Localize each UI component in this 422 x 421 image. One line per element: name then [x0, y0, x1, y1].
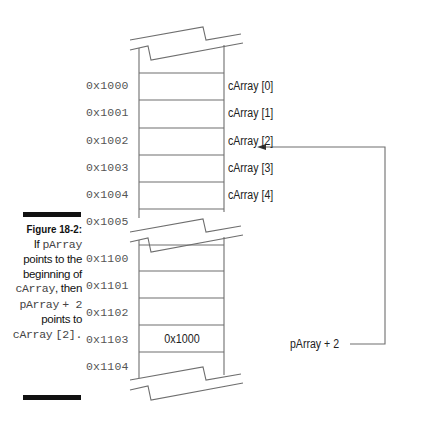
- upper-memory-column: [139, 45, 224, 218]
- array-element-label: cArray [3]: [228, 161, 273, 175]
- figure-label: Figure 18-2:: [21, 222, 82, 237]
- address-label: 0x1002: [86, 134, 136, 147]
- caption-code: pArray: [42, 238, 82, 251]
- caption-code: [2].: [56, 328, 82, 341]
- caption-top-bar: [23, 212, 81, 217]
- caption-code: cArray: [13, 328, 53, 341]
- top-break-symbol: [130, 27, 243, 60]
- lower-memory-column: [139, 237, 224, 378]
- pointer-arrow-line: [264, 147, 385, 344]
- bottom-break-symbol: [130, 367, 243, 400]
- figure-18-2: 0x1000 0x1001 0x1002 0x1003 0x1004 0x100…: [0, 0, 422, 421]
- array-element-label: cArray [1]: [228, 106, 273, 120]
- address-label: 0x1001: [86, 106, 136, 119]
- figure-caption: Figure 18-2: If pArray points to the beg…: [10, 222, 82, 342]
- address-label: 0x1005: [86, 215, 136, 228]
- caption-text: points to: [41, 313, 82, 325]
- caption-code: pArray: [19, 298, 59, 311]
- address-label: 0x1000: [86, 79, 136, 92]
- caption-text: , then: [55, 282, 82, 294]
- caption-code: + 2: [62, 298, 82, 311]
- address-label: 0x1004: [86, 188, 136, 201]
- middle-break-symbol: [130, 219, 243, 252]
- array-element-label: cArray [0]: [228, 79, 273, 93]
- address-label: 0x1102: [86, 306, 136, 319]
- address-label: 0x1103: [86, 333, 136, 346]
- address-label: 0x1101: [86, 279, 136, 292]
- array-element-label: cArray [4]: [228, 188, 273, 202]
- caption-code: cArray: [15, 282, 55, 295]
- caption-text: points to the beginning of: [23, 253, 82, 280]
- array-element-label: cArray [2]: [228, 134, 273, 148]
- pointer-cell-value: 0x1000: [144, 332, 220, 346]
- caption-bottom-bar: [23, 395, 81, 400]
- address-label: 0x1104: [86, 360, 136, 373]
- memory-diagram: [0, 0, 422, 421]
- address-label: 0x1100: [86, 252, 136, 265]
- address-label: 0x1003: [86, 161, 136, 174]
- pointer-label: pArray + 2: [290, 337, 339, 351]
